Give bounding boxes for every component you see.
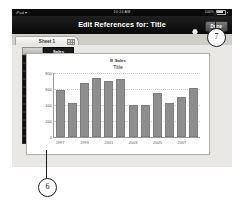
chart-bar [165,103,174,137]
callout-7: 7 [207,28,226,47]
chart-plot-area: 0200400600800199719992001200320052007 [53,73,200,138]
chart-bar [116,79,125,137]
chart-y-axis-tick-label: 600 [45,87,52,92]
chart-bar [68,103,77,137]
chart-bar [153,93,162,137]
editor-content: Sales 1997587199842519996802000736200170… [12,45,232,167]
battery-cap-icon [227,12,228,14]
legend-swatch-sales [110,59,113,62]
ipad-screen: iPad ▾ 10:24 AM 100% Edit References for… [12,9,232,167]
chart-bar [141,105,150,137]
chart-bar [177,97,186,137]
chart-bar [92,78,101,137]
chart-y-axis-tick-label: 0 [50,135,52,140]
chart-x-axis-tick-label: 2005 [153,140,162,145]
status-bar: iPad ▾ 10:24 AM 100% [12,9,232,16]
status-bar-time: 10:24 AM [12,9,232,16]
callout-6: 6 [38,178,57,197]
chart-y-axis-tick-label: 400 [45,103,52,108]
chart-panel[interactable]: Sales Title 0200400600800199719992001200… [26,53,210,155]
callout-7-leader-line [215,14,216,28]
chart-legend: Sales [27,58,209,63]
chart-bar [80,83,89,137]
chart-title: Title [27,64,209,70]
chart-x-axis-tick-label: 2001 [104,140,113,145]
chart-x-axis-tick-label: 1999 [80,140,89,145]
gear-icon[interactable] [191,22,199,30]
battery-icon [216,10,226,16]
chart-gridline [54,89,200,90]
chart-x-axis-tick-label: 2003 [129,140,138,145]
chart-bar [189,88,198,137]
chart-y-axis-tick-label: 800 [45,71,52,76]
chart-bar [104,81,113,137]
chart-bar [56,90,65,137]
legend-label-sales: Sales [115,58,126,63]
chart-gridline [54,73,200,74]
chart-y-axis-tick-label: 200 [45,119,52,124]
callout-6-leader-line [46,150,47,178]
chart-bar [129,105,138,137]
chart-x-axis-tick-label: 2007 [177,140,186,145]
page-title: Edit References for: Title [12,16,232,34]
toolbar: Edit References for: Title Done [12,16,232,34]
chart-x-axis-tick-label: 1997 [56,140,65,145]
